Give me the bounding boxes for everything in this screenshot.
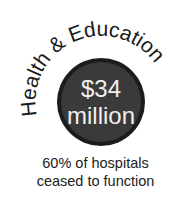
caption: 60% of hospitals ceased to function [0, 154, 191, 190]
caption-line-2: ceased to function [0, 172, 191, 190]
badge-amount: $34 [81, 75, 121, 102]
badge-unit: million [67, 102, 135, 129]
caption-line-1: 60% of hospitals [0, 154, 191, 172]
